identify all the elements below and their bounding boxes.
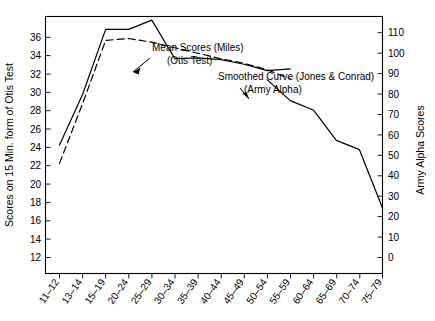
right-tick-label: 60	[388, 130, 400, 141]
x-tick-label: 40–44	[198, 276, 223, 305]
x-tick-label: 50–54	[244, 276, 269, 305]
left-tick-label: 24	[30, 142, 42, 153]
left-axis-ticks	[46, 37, 51, 257]
right-tick-label: 20	[388, 211, 400, 222]
right-axis-title: Army Alpha Scores	[414, 105, 426, 194]
annotation-smoothed-curve-line1: Smoothed Curve (Jones & Conrad)	[218, 71, 374, 82]
x-tick-label: 70–74	[336, 276, 361, 305]
x-axis-ticks	[60, 274, 383, 279]
annotation-mean-scores-leader	[133, 58, 150, 72]
x-tick-label: 20–24	[105, 276, 130, 305]
x-axis-tick-labels: 11–12 13–14 15–19 20–24 25–29 30–34 35–3…	[37, 276, 385, 305]
annotation-mean-scores-line1: Mean Scores (Miles)	[152, 42, 244, 53]
x-tick-label: 65–69	[313, 276, 338, 305]
x-tick-label: 25–29	[129, 276, 154, 305]
series-line-army-alpha-decline	[267, 80, 382, 209]
left-tick-label: 36	[30, 32, 42, 43]
x-tick-label: 11–12	[37, 276, 62, 305]
right-axis-ticks	[378, 33, 383, 258]
x-tick-label: 35–39	[175, 276, 200, 305]
right-tick-label: 0	[388, 252, 394, 263]
left-axis: 12 14 16 18 20 22 24 26 28 30 32 34 36 S…	[3, 32, 51, 263]
right-tick-label: 70	[388, 109, 400, 120]
annotation-smoothed-curve-line2: (Army Alpha)	[244, 84, 302, 95]
annotation-mean-scores: Mean Scores (Miles) (Otis Test)	[133, 42, 244, 75]
right-tick-label: 100	[388, 48, 405, 59]
annotation-smoothed-curve: Smoothed Curve (Jones & Conrad) (Army Al…	[218, 71, 374, 99]
right-axis-tick-labels: 0 10 20 30 40 50 60 70 80 90 100 110	[388, 27, 405, 263]
line-chart-svg: 12 14 16 18 20 22 24 26 28 30 32 34 36 S…	[0, 0, 435, 321]
left-tick-label: 22	[30, 160, 42, 171]
left-tick-label: 20	[30, 179, 42, 190]
x-tick-label: 55–59	[267, 276, 292, 305]
left-tick-label: 32	[30, 69, 42, 80]
chart-figure: 12 14 16 18 20 22 24 26 28 30 32 34 36 S…	[0, 0, 435, 321]
left-tick-label: 26	[30, 124, 42, 135]
right-tick-label: 90	[388, 68, 400, 79]
left-tick-label: 30	[30, 87, 42, 98]
right-tick-label: 50	[388, 150, 400, 161]
x-tick-label: 13–14	[59, 276, 84, 305]
left-tick-label: 16	[30, 215, 42, 226]
right-axis: 0 10 20 30 40 50 60 70 80 90 100 110 Arm…	[378, 27, 427, 263]
left-tick-label: 14	[30, 234, 42, 245]
left-tick-label: 12	[30, 252, 42, 263]
annotation-mean-scores-line2: (Otis Test)	[167, 55, 212, 66]
left-axis-title: Scores on 15 Min. form of Otis Test	[3, 63, 15, 227]
left-axis-tick-labels: 12 14 16 18 20 22 24 26 28 30 32 34 36	[30, 32, 42, 263]
series-line-mean-scores-otis	[60, 20, 291, 145]
right-tick-label: 80	[388, 89, 400, 100]
x-tick-label: 75–79	[359, 276, 384, 305]
left-tick-label: 34	[30, 50, 42, 61]
x-tick-label: 15–19	[82, 276, 107, 305]
x-tick-label: 30–34	[152, 276, 177, 305]
left-tick-label: 28	[30, 105, 42, 116]
right-tick-label: 10	[388, 232, 400, 243]
left-tick-label: 18	[30, 197, 42, 208]
x-axis: 11–12 13–14 15–19 20–24 25–29 30–34 35–3…	[37, 274, 385, 306]
x-tick-label: 60–64	[290, 276, 315, 305]
x-tick-label: 45–49	[221, 276, 246, 305]
right-tick-label: 30	[388, 191, 400, 202]
right-tick-label: 40	[388, 170, 400, 181]
right-tick-label: 110	[388, 27, 404, 38]
